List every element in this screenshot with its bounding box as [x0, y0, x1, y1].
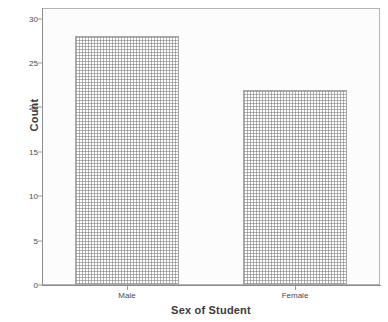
x-axis-tick-label: Female — [282, 291, 309, 300]
y-axis-tick-label: 30 — [29, 14, 38, 23]
x-axis-tick-labels: MaleFemale — [43, 291, 379, 303]
x-axis-tick-mark — [127, 286, 128, 290]
y-axis-tick-labels: 051015202530 — [14, 8, 38, 285]
y-axis-tick-label: 15 — [29, 147, 38, 156]
bar-slot — [243, 9, 347, 285]
bar-slot — [75, 9, 179, 285]
x-axis-title: Sex of Student — [42, 304, 380, 316]
y-axis-tick-label: 20 — [29, 103, 38, 112]
x-axis-tick-label: Male — [118, 291, 135, 300]
y-axis-tick-label: 25 — [29, 59, 38, 68]
bar — [75, 36, 179, 285]
x-axis-tick-mark — [295, 286, 296, 290]
bars-container — [43, 9, 379, 285]
bar-chart: Count 051015202530 MaleFemale Sex of Stu… — [0, 0, 388, 322]
y-axis-tick-label: 10 — [29, 192, 38, 201]
bar — [243, 90, 347, 285]
